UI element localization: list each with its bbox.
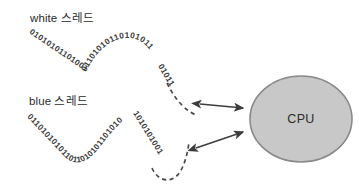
arrow-white-thread-to-cpu: [200, 104, 243, 108]
white-bits-peak: 01101010110101011: [80, 31, 156, 73]
white-thread-bits-segment-2: 01101010110101011: [80, 31, 156, 73]
blue-bits-valley: 1011010101101010: [63, 115, 125, 164]
white-thread-bits-segment-1: 01010101101001: [28, 27, 90, 73]
white-bits-descend: 01011: [156, 62, 176, 88]
blue-bits-descend: 1010101001: [131, 109, 165, 156]
white-thread-bits-segment-3: 01011: [156, 62, 176, 88]
white-thread-dashed-tail: [167, 83, 196, 115]
diagram-canvas: white 스레드 01010101101001 011010101101010…: [0, 0, 359, 196]
cpu-label: CPU: [287, 112, 314, 126]
white-thread-label: white 스레드: [29, 12, 94, 24]
thread-cpu-diagram: white 스레드 01010101101001 011010101101010…: [0, 0, 359, 196]
blue-thread-bits: 0110101010101 1011010101101010 101010100…: [0, 0, 165, 165]
blue-thread-bits-segment-2: 1011010101101010: [63, 115, 125, 164]
white-bits-upper-left: 01010101101001: [28, 27, 90, 73]
blue-thread-bits-segment-3: 1010101001: [131, 109, 165, 156]
blue-thread-label: blue 스레드: [29, 95, 88, 107]
white-thread-bits: 01010101101001 01101010110101011 01011: [28, 27, 177, 88]
arrow-blue-thread-to-cpu: [196, 132, 243, 148]
